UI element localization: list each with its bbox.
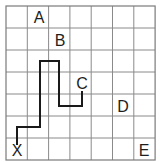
label-d: D	[117, 98, 129, 115]
label-c: C	[76, 75, 88, 92]
label-b: B	[55, 32, 66, 49]
label-e: E	[139, 142, 150, 159]
grid-diagram: A B C D E X	[0, 0, 160, 162]
label-a: A	[34, 9, 45, 26]
label-x-start: X	[12, 142, 23, 159]
